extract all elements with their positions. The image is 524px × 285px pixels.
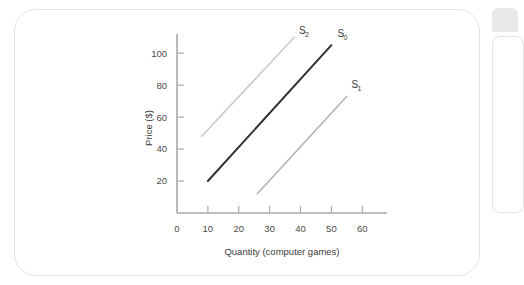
side-panel-card <box>492 36 524 213</box>
x-axis-ticks <box>208 206 362 213</box>
axes-group <box>177 34 387 213</box>
x-tick-label-50: 50 <box>326 223 337 234</box>
y-tick-label-80: 80 <box>156 80 167 91</box>
y-axis-title: Price ($) <box>143 110 154 146</box>
y-tick-label-100: 100 <box>151 48 167 59</box>
curve-label-subscript-2: 2 <box>305 31 309 38</box>
supply-curve-labels: S2S0S1 <box>299 25 362 92</box>
y-tick-label-60: 60 <box>156 112 167 123</box>
y-tick-label-40: 40 <box>156 143 167 154</box>
x-tick-label-20: 20 <box>233 223 244 234</box>
y-tick-label-20: 20 <box>156 175 167 186</box>
curve-label-subscript-1: 1 <box>357 85 361 92</box>
x-tick-label-10: 10 <box>203 223 214 234</box>
x-tick-label-60: 60 <box>357 223 368 234</box>
figure-card: 20406080100 0102030405060 S2S0S1 Quantit… <box>14 9 480 276</box>
x-axis-tick-labels: 0102030405060 <box>174 223 367 234</box>
supply-curve-line-S2 <box>202 37 295 136</box>
chart-svg: 20406080100 0102030405060 S2S0S1 Quantit… <box>15 10 481 277</box>
supply-curve-line-S0 <box>208 45 332 181</box>
x-axis-title: Quantity (computer games) <box>224 246 339 257</box>
supply-curve-lines <box>202 37 347 194</box>
supply-curve-chart: 20406080100 0102030405060 S2S0S1 Quantit… <box>15 10 481 277</box>
x-tick-label-30: 30 <box>264 223 275 234</box>
y-axis-ticks <box>177 53 184 181</box>
x-tick-label-40: 40 <box>295 223 306 234</box>
x-tick-label-0: 0 <box>174 223 179 234</box>
curve-label-subscript-0: 0 <box>344 34 348 41</box>
side-panel-tab[interactable] <box>492 8 518 32</box>
